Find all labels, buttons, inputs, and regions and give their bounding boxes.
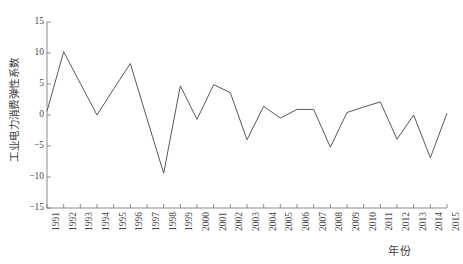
x-tick-label: 1998 (168, 212, 178, 231)
y-tick-label: 15 (20, 17, 44, 27)
x-tick-label: 1995 (118, 212, 128, 231)
x-tick-label: 2012 (401, 212, 411, 231)
y-axis-tick-labels: 151050−5−10−15 (16, 22, 44, 208)
x-tick-label: 1992 (68, 212, 78, 231)
x-tick-label: 1993 (84, 212, 94, 231)
x-tick-label: 1994 (101, 212, 111, 231)
y-tick-label: 10 (20, 48, 44, 58)
x-tick-label: 2013 (418, 212, 428, 231)
x-tick-label: 2004 (268, 212, 278, 231)
x-tick-label: 1997 (151, 212, 161, 231)
x-axis-tick-labels: 1991199219931994199519961997199819992000… (47, 212, 447, 252)
x-axis-title: 年份 (388, 242, 411, 258)
y-tick-label: −10 (20, 172, 44, 182)
x-tick-label: 2015 (451, 212, 461, 231)
x-tick-label: 2010 (368, 212, 378, 231)
x-tick-label: 2005 (284, 212, 294, 231)
tick-marks-group (47, 22, 447, 208)
x-tick-label: 2002 (234, 212, 244, 231)
x-tick-label: 2003 (251, 212, 261, 231)
x-tick-label: 1996 (134, 212, 144, 231)
y-tick-label: −5 (20, 141, 44, 151)
line-chart-svg (47, 22, 447, 208)
y-tick-label: 5 (20, 79, 44, 89)
chart-figure: 工业电力消费弹性系数 151050−5−10−15 19911992199319… (0, 0, 463, 264)
data-series-line (47, 52, 447, 174)
x-tick-label: 2001 (218, 212, 228, 231)
x-tick-label: 2008 (334, 212, 344, 231)
x-tick-label: 2007 (318, 212, 328, 231)
x-tick-label: 2000 (201, 212, 211, 231)
axes-group (47, 22, 447, 208)
y-tick-label: −15 (20, 203, 44, 213)
x-tick-label: 1991 (51, 212, 61, 231)
x-tick-label: 2006 (301, 212, 311, 231)
plot-area (47, 22, 447, 208)
x-tick-label: 2009 (351, 212, 361, 231)
x-tick-label: 2014 (434, 212, 444, 231)
y-tick-label: 0 (20, 110, 44, 120)
x-tick-label: 1999 (184, 212, 194, 231)
x-tick-label: 2011 (384, 212, 394, 231)
